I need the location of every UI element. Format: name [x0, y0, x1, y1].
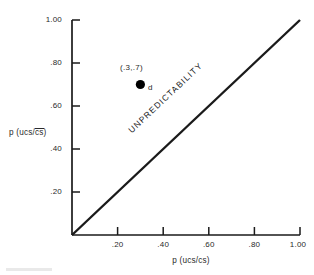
chart-figure: 1.00 .80 .60 .40 .20 .20 .40 .60 .80 1.0…: [0, 0, 314, 275]
x-tick-label-0.40: .40: [146, 240, 180, 249]
y-tick-label-0.40: .40: [32, 144, 62, 153]
x-tick-label-0.80: .80: [237, 240, 271, 249]
x-axis-title: p (ucs/cs): [151, 256, 231, 265]
data-point-name-label: d: [148, 83, 152, 92]
data-point-d: [136, 80, 145, 89]
unpredictability-diagonal-line: [72, 20, 300, 235]
x-tick-label-0.60: .60: [192, 240, 226, 249]
y-axis-title: p (ucs/cs): [9, 128, 47, 137]
y-tick-label-0.20: .20: [32, 187, 62, 196]
scan-artifact: [6, 268, 52, 271]
y-axis-title-suffix: ): [44, 128, 47, 137]
x-tick-label-0.20: .20: [101, 240, 135, 249]
y-tick-label-1.00: 1.00: [32, 15, 62, 24]
y-axis-title-prefix: p (ucs/: [9, 128, 35, 137]
x-tick-label-1.00: 1.00: [281, 240, 314, 249]
plot-canvas: [0, 0, 314, 275]
data-point-coordinate-label: (.3,.7): [120, 63, 143, 72]
y-tick-label-0.80: .80: [32, 58, 62, 67]
y-axis-title-overbar-term: cs: [35, 128, 44, 137]
y-tick-label-0.60: .60: [32, 101, 62, 110]
